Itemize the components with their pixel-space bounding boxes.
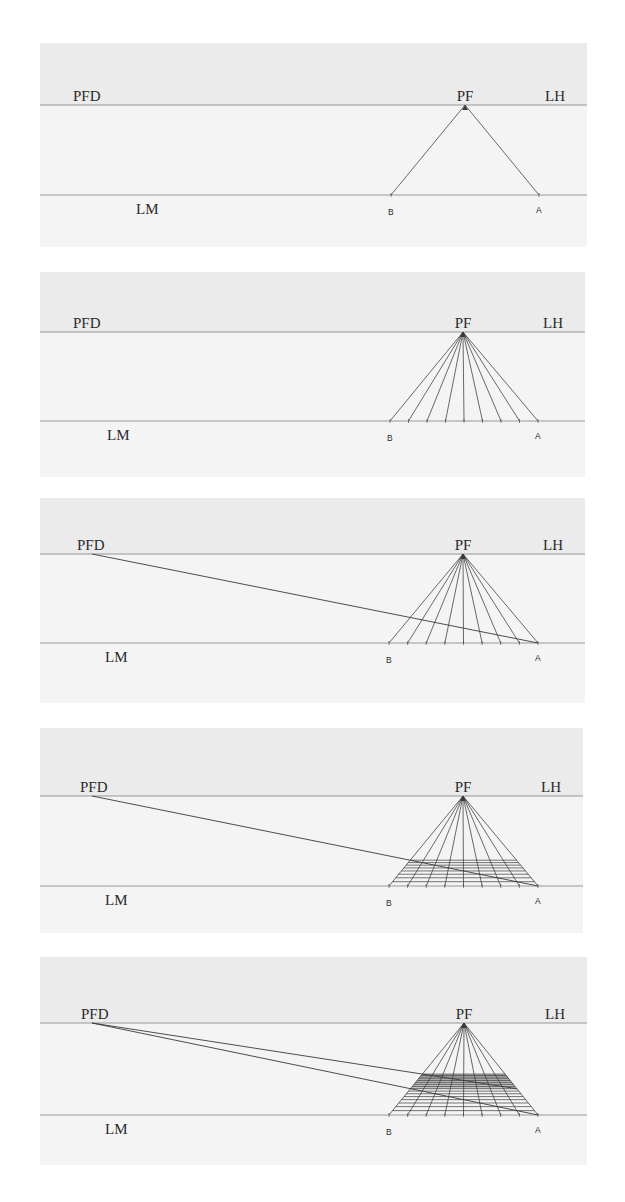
label-lm: LM xyxy=(105,649,128,665)
label-b: B xyxy=(386,655,392,665)
panel-3: PFDPFLHLMBA xyxy=(40,498,585,703)
label-a: A xyxy=(536,205,542,215)
diagram-canvas: PFDPFLHLMBAPFDPFLHLMBAPFDPFLHLMBAPFDPFLH… xyxy=(0,0,625,1202)
label-pf: PF xyxy=(455,779,472,795)
label-pfd: PFD xyxy=(77,537,105,553)
label-lh: LH xyxy=(541,779,561,795)
label-a: A xyxy=(535,896,541,906)
label-pfd: PFD xyxy=(81,1006,109,1022)
sky-band xyxy=(40,498,585,554)
label-pfd: PFD xyxy=(73,315,101,331)
label-lm: LM xyxy=(136,201,159,217)
label-a: A xyxy=(535,653,541,663)
label-b: B xyxy=(386,898,392,908)
label-pf: PF xyxy=(455,315,472,331)
label-b: B xyxy=(386,1127,392,1137)
label-b: B xyxy=(388,207,394,217)
radial-line xyxy=(464,1023,465,1115)
label-lh: LH xyxy=(545,1006,565,1022)
label-lh: LH xyxy=(543,537,563,553)
label-pfd: PFD xyxy=(80,779,108,795)
panel-2: PFDPFLHLMBA xyxy=(40,272,585,477)
sky-band xyxy=(40,728,583,796)
label-lm: LM xyxy=(105,892,128,908)
panel-4: PFDPFLHLMBA xyxy=(40,728,583,933)
label-pf: PF xyxy=(456,1006,473,1022)
label-lm: LM xyxy=(107,427,130,443)
label-pf: PF xyxy=(455,537,472,553)
radial-line xyxy=(463,554,464,643)
ground-band xyxy=(40,105,587,247)
ground-band xyxy=(40,796,583,933)
ground-band xyxy=(40,554,585,703)
label-pfd: PFD xyxy=(73,88,101,104)
sky-band xyxy=(40,957,587,1023)
label-a: A xyxy=(535,1125,541,1135)
label-pf: PF xyxy=(457,88,474,104)
sky-band xyxy=(40,43,587,105)
sky-band xyxy=(40,272,585,332)
perspective-diagram-figure: PFD PF LH LM B A PFDPFLHLMBAPFDPFLHLMBAP… xyxy=(0,0,625,1202)
label-lh: LH xyxy=(545,88,565,104)
label-b: B xyxy=(387,433,393,443)
ground-band xyxy=(40,332,585,477)
label-lm: LM xyxy=(105,1121,128,1137)
panel-5: PFDPFLHLMBA xyxy=(40,957,587,1165)
panel-1: PFDPFLHLMBA xyxy=(40,43,587,247)
label-lh: LH xyxy=(543,315,563,331)
label-a: A xyxy=(535,431,541,441)
radial-line xyxy=(463,796,464,886)
